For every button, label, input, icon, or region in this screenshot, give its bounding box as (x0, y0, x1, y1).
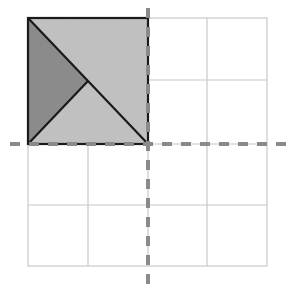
diagram-canvas (0, 0, 289, 300)
diagram-svg (0, 0, 289, 300)
